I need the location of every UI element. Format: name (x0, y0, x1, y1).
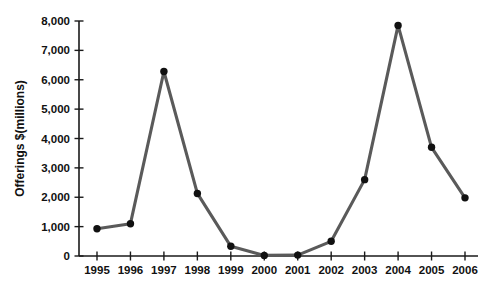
y-axis-tick-label: 7,000 (41, 44, 70, 56)
y-axis-tick-label: 3,000 (41, 162, 70, 174)
data-point-marker (160, 68, 167, 75)
y-axis-tick-label: 4,000 (41, 133, 70, 145)
chart-background (0, 0, 497, 288)
line-chart: 01,0002,0003,0004,0005,0006,0007,0008,00… (0, 0, 497, 288)
y-axis-tick-label: 5,000 (41, 103, 70, 115)
y-axis-tick-label: 8,000 (41, 15, 70, 27)
data-point-marker (428, 144, 435, 151)
data-point-marker (261, 252, 268, 259)
x-axis-tick-label: 1995 (84, 264, 110, 276)
x-axis-tick-label: 2003 (352, 264, 378, 276)
y-axis-tick-label: 1,000 (41, 221, 70, 233)
y-axis-title-label: Offerings $(millions) (13, 80, 27, 197)
y-axis-tick-label: 2,000 (41, 191, 70, 203)
data-point-marker (294, 251, 301, 258)
x-axis-tick-label: 1998 (185, 264, 211, 276)
data-point-marker (327, 238, 334, 245)
data-point-marker (394, 22, 401, 29)
data-point-marker (194, 190, 201, 197)
x-axis-tick-label: 1997 (151, 264, 177, 276)
chart-container: 01,0002,0003,0004,0005,0006,0007,0008,00… (0, 0, 497, 288)
x-axis-tick-label: 1996 (118, 264, 144, 276)
x-axis-tick-label: 1999 (218, 264, 244, 276)
x-axis-tick-label: 2001 (285, 264, 311, 276)
y-axis-title: Offerings $(millions) (13, 80, 27, 197)
x-axis-tick-label: 2005 (419, 264, 445, 276)
data-point-marker (361, 176, 368, 183)
data-point-marker (227, 243, 234, 250)
data-point-marker (93, 225, 100, 232)
x-axis-tick-label: 2004 (385, 264, 411, 276)
data-point-marker (461, 194, 468, 201)
x-axis-tick-label: 2002 (318, 264, 344, 276)
x-axis-tick-label: 2006 (452, 264, 478, 276)
x-axis-tick-label: 2000 (251, 264, 277, 276)
data-point-marker (127, 220, 134, 227)
y-axis-tick-label: 6,000 (41, 74, 70, 86)
y-axis-tick-label: 0 (64, 250, 70, 262)
